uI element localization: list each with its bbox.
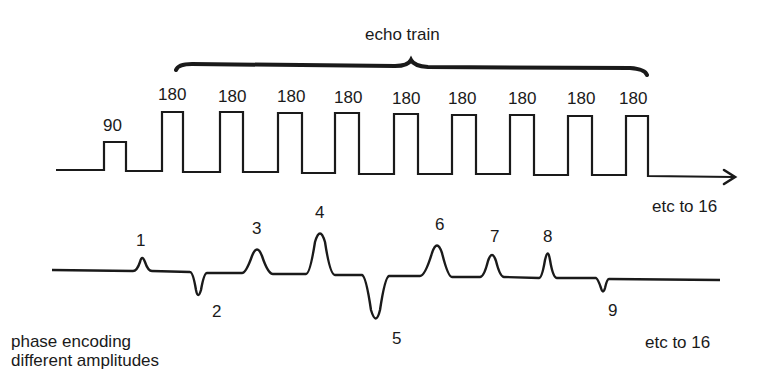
refocus-pulse-label-4: 180 [334, 89, 362, 106]
gradient-lobe-label-9: 9 [608, 302, 617, 319]
phase-encoding-description: phase encoding different amplitudes [11, 332, 159, 370]
refocus-pulse-label-8: 180 [567, 90, 595, 107]
phase-encoding-line-1: phase encoding [11, 332, 159, 351]
refocus-pulse-label-2: 180 [218, 88, 246, 105]
refocus-pulse-label-9: 180 [619, 90, 647, 107]
refocus-pulse-label-7: 180 [508, 90, 536, 107]
excitation-pulse-label: 90 [103, 117, 122, 134]
phase-encoding-gradient [52, 234, 720, 319]
gradient-lobe-label-2: 2 [212, 303, 221, 320]
gradient-lobe-label-3: 3 [252, 220, 261, 237]
gradient-lobe-label-8: 8 [543, 228, 552, 245]
refocus-pulse-label-5: 180 [392, 90, 420, 107]
gradient-continuation-label: etc to 16 [645, 334, 710, 351]
gradient-lobe-label-7: 7 [490, 228, 499, 245]
refocus-pulse-label-6: 180 [448, 90, 476, 107]
gradient-lobe-label-4: 4 [315, 204, 324, 221]
echo-train-brace [176, 60, 647, 75]
refocus-pulse-label-3: 180 [277, 88, 305, 105]
gradient-lobe-label-1: 1 [136, 232, 145, 249]
refocus-pulse-label-1: 180 [158, 86, 186, 103]
gradient-lobe-label-5: 5 [392, 330, 401, 347]
phase-encoding-line-2: different amplitudes [11, 351, 159, 370]
rf-pulse-train [56, 112, 733, 177]
gradient-lobe-label-6: 6 [435, 216, 444, 233]
rf-continuation-label: etc to 16 [652, 198, 717, 215]
echo-train-label: echo train [365, 26, 440, 43]
